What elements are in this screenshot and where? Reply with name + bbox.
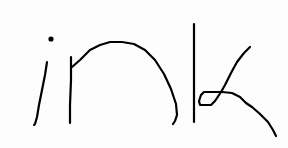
i-dot: [48, 36, 53, 41]
letter-k: [194, 24, 276, 136]
n-arch-stroke: [72, 42, 177, 124]
i-stem-stroke: [34, 62, 47, 125]
letter-i: [34, 36, 54, 125]
n-stem-stroke: [70, 57, 71, 123]
letter-n: [70, 42, 177, 124]
ink-canvas[interactable]: ink: [0, 0, 288, 148]
ink-drawing: [0, 0, 288, 148]
k-leg-stroke: [222, 92, 276, 136]
k-arm-stroke: [199, 47, 250, 105]
